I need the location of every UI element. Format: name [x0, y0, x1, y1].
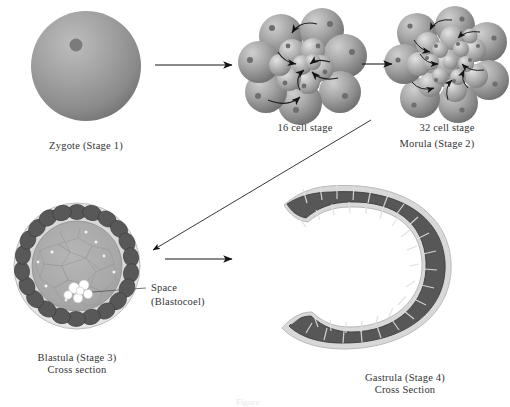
morula-label: Morula (Stage 2) — [400, 138, 475, 150]
gastrula-illustration — [282, 185, 451, 349]
sixteen-cell-label: 16 cell stage — [277, 122, 332, 134]
thirty-two-cell-label: 32 cell stage — [419, 122, 474, 134]
bottom-text-fragment: Figure — [236, 397, 260, 407]
zygote-label: Zygote (Stage 1) — [49, 140, 123, 152]
thirty-two-cell-illustration — [384, 6, 509, 123]
gastrula-label-line1: Gastrula (Stage 4) — [365, 372, 445, 384]
blastocoel-callout-line2: (Blastocoel) — [151, 296, 205, 308]
gastrula-label-line2: Cross Section — [375, 384, 436, 396]
blastula-illustration — [13, 203, 146, 329]
sixteen-cell-illustration — [238, 8, 367, 125]
blastula-label-line2: Cross section — [48, 364, 107, 376]
blastula-label-line1: Blastula (Stage 3) — [38, 352, 117, 364]
blastocoel-callout-line1: Space — [151, 282, 177, 294]
zygote-illustration — [31, 11, 141, 121]
arrow-morula-to-blastula — [153, 120, 371, 250]
